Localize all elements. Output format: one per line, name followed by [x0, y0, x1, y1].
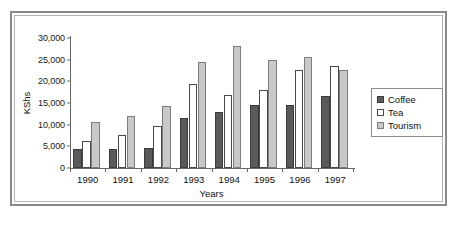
- bar-group: [321, 38, 347, 168]
- y-axis-tick-label: 30,000: [38, 33, 70, 43]
- y-axis-tick-label: 25,000: [38, 55, 70, 65]
- bar-tea-1992: [153, 126, 161, 168]
- bar-coffee-1994: [215, 112, 223, 168]
- y-axis-tick-mark: [67, 38, 70, 39]
- x-axis-category-label: 1996: [282, 174, 317, 185]
- plot-area: 05,00010,00015,00020,00025,00030,000: [70, 38, 353, 168]
- chart-legend: Coffee Tea Tourism: [371, 88, 443, 137]
- bar-tourism-1990: [91, 122, 99, 168]
- bar-tourism-1992: [162, 106, 170, 168]
- x-axis-tick-mark: [353, 168, 354, 172]
- bar-tourism-1997: [339, 70, 347, 168]
- bar-tourism-1993: [198, 62, 206, 168]
- bar-coffee-1992: [144, 148, 152, 168]
- y-axis-tick-mark: [67, 124, 70, 125]
- bar-coffee-1991: [109, 149, 117, 168]
- y-axis-tick-mark: [67, 103, 70, 104]
- bar-coffee-1990: [73, 149, 81, 169]
- y-axis-title: KShs: [21, 92, 32, 115]
- x-axis-tick-mark: [282, 168, 283, 172]
- bar-tourism-1991: [127, 116, 135, 168]
- bar-tea-1995: [259, 90, 267, 168]
- x-axis-tick-mark: [212, 168, 213, 172]
- x-axis-category-label: 1995: [247, 174, 282, 185]
- bar-group: [73, 38, 99, 168]
- legend-label-tourism: Tourism: [388, 121, 421, 131]
- legend-label-coffee: Coffee: [388, 95, 416, 105]
- x-axis-tick-mark: [318, 168, 319, 172]
- bar-tea-1994: [224, 95, 232, 168]
- bar-tourism-1994: [233, 46, 241, 168]
- bar-tourism-1995: [268, 60, 276, 168]
- y-axis-tick-label: 20,000: [38, 76, 70, 86]
- bar-group: [215, 38, 241, 168]
- y-axis-tick-mark: [67, 81, 70, 82]
- x-axis-category-label: 1991: [105, 174, 140, 185]
- bar-tea-1990: [82, 141, 90, 168]
- x-axis-tick-mark: [105, 168, 106, 172]
- legend-swatch-tourism-icon: [377, 122, 384, 129]
- bar-group: [144, 38, 170, 168]
- x-axis-tick-mark: [70, 168, 71, 172]
- legend-label-tea: Tea: [388, 108, 403, 118]
- y-axis-tick-mark: [67, 59, 70, 60]
- bar-group: [180, 38, 206, 168]
- x-axis-tick-mark: [247, 168, 248, 172]
- x-axis-category-label: 1994: [212, 174, 247, 185]
- bar-tea-1991: [118, 135, 126, 168]
- legend-item-tea: Tea: [377, 106, 438, 119]
- legend-swatch-coffee-icon: [377, 96, 384, 103]
- bar-coffee-1995: [250, 105, 258, 168]
- chart-figure: 05,00010,00015,00020,00025,00030,000 KSh…: [0, 0, 457, 228]
- bar-coffee-1997: [321, 96, 329, 168]
- y-axis-tick-label: 10,000: [38, 120, 70, 130]
- x-axis-tick-mark: [176, 168, 177, 172]
- bar-group: [286, 38, 312, 168]
- y-axis-tick-mark: [67, 146, 70, 147]
- bar-group: [250, 38, 276, 168]
- x-axis-title: Years: [70, 188, 353, 199]
- bar-group: [109, 38, 135, 168]
- x-axis-tick-mark: [141, 168, 142, 172]
- bar-tea-1993: [189, 84, 197, 168]
- y-axis-tick-label: 15,000: [38, 98, 70, 108]
- x-axis-line: [70, 168, 355, 169]
- x-axis-category-label: 1992: [141, 174, 176, 185]
- bar-tea-1996: [295, 70, 303, 168]
- x-axis-category-label: 1997: [318, 174, 353, 185]
- bar-chart: 05,00010,00015,00020,00025,00030,000 KSh…: [0, 0, 457, 228]
- bar-coffee-1993: [180, 118, 188, 168]
- legend-item-coffee: Coffee: [377, 93, 438, 106]
- bar-coffee-1996: [286, 105, 294, 168]
- legend-swatch-tea-icon: [377, 109, 384, 116]
- legend-item-tourism: Tourism: [377, 119, 438, 132]
- x-axis-category-label: 1993: [176, 174, 211, 185]
- x-axis-category-label: 1990: [70, 174, 105, 185]
- bar-tourism-1996: [304, 57, 312, 168]
- bar-tea-1997: [330, 66, 338, 168]
- y-axis-tick-label: 5,000: [43, 141, 70, 151]
